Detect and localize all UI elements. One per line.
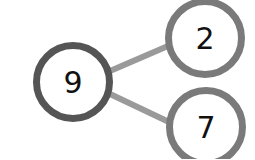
part-node-2: 7 — [170, 91, 243, 160]
part-1-value: 2 — [195, 21, 214, 56]
whole-value: 9 — [63, 65, 82, 100]
connector-whole-to-part-2 — [110, 94, 169, 122]
part-node-1: 2 — [169, 2, 242, 75]
connector-whole-to-part-1 — [110, 46, 168, 71]
part-2-value: 7 — [196, 110, 215, 145]
number-bond-diagram: 9 2 7 — [0, 0, 255, 159]
whole-node: 9 — [37, 46, 110, 119]
